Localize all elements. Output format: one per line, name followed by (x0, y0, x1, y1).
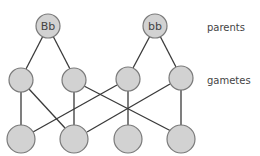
offspring-node-3 (114, 125, 142, 153)
parent-node-bb-upper: Bb (36, 14, 60, 38)
gametes-row-label: gametes (207, 75, 251, 86)
gamete-node-3 (116, 67, 140, 91)
parents-row-label: parents (207, 22, 245, 33)
genetic-cross-diagram: Bb bb parents gametes (0, 0, 260, 156)
gamete-node-2 (62, 68, 86, 92)
edge-g1-o2 (29, 89, 65, 128)
edge-p1-g1 (26, 36, 43, 69)
edge-p2-g3 (133, 36, 150, 68)
parent-label: Bb (41, 20, 56, 33)
offspring-node-2 (60, 125, 88, 153)
gamete-node-1 (9, 68, 33, 92)
gamete-node-4 (169, 66, 193, 90)
edge-p1-g2 (53, 36, 70, 69)
parent-node-bb-lower: bb (143, 14, 167, 38)
edge-p2-g4 (160, 36, 176, 67)
offspring-node-1 (7, 125, 35, 153)
offspring-node-4 (167, 125, 195, 153)
edges (21, 36, 181, 132)
parent-label: bb (148, 20, 162, 33)
